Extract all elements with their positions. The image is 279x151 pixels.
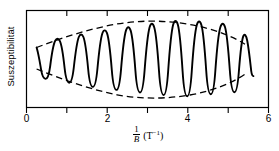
- x-tick-label-0: 0: [19, 113, 34, 124]
- x-tick-label-4: 4: [180, 113, 195, 124]
- figure-container: 0 2 4 6 Suszeptibilität 1 B (T−1): [0, 0, 279, 151]
- x-axis-unit-close: ): [160, 131, 163, 142]
- x-axis-title-numerator: 1: [133, 125, 141, 134]
- x-axis-title-denominator: B: [133, 134, 141, 144]
- upper-envelope-curve: [37, 21, 245, 47]
- x-axis-unit-exponent: −1: [153, 129, 160, 137]
- x-axis-title: 1 B (T−1): [26, 126, 270, 145]
- y-axis-title: Suszeptibilität: [5, 10, 16, 104]
- x-tick-label-6: 6: [261, 113, 276, 124]
- x-axis-minor-ticks-bottom: [67, 108, 228, 114]
- x-axis-unit-open: (T: [143, 131, 152, 142]
- x-axis-ticks-top: [67, 11, 228, 17]
- x-axis-title-fraction: 1 B: [133, 125, 141, 144]
- x-axis-title-unit: (T−1): [143, 129, 163, 141]
- x-tick-label-2: 2: [100, 113, 115, 124]
